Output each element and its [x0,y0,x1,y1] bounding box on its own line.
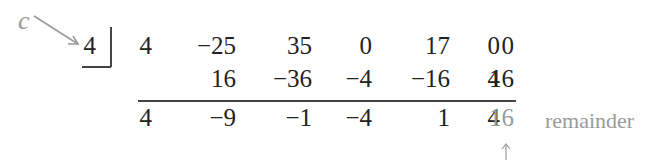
product: −36 [252,65,312,93]
remainder-label: remainder [545,108,634,134]
result: −1 [252,104,312,132]
divisor-value: 4 [36,32,96,60]
coefficient: 35 [252,32,312,60]
c-label: c [18,6,30,36]
coefficient: 0 [312,32,372,60]
product: 16 [176,65,236,93]
remainder-value: 16 [454,104,514,132]
coefficient: 0 [454,32,514,60]
coefficient: −25 [176,32,236,60]
coefficient: 4 [92,32,152,60]
result: −9 [176,104,236,132]
up-arrow-icon [500,142,512,160]
product: 16 [454,65,514,93]
result: −4 [312,104,372,132]
product: −4 [312,65,372,93]
divisor-underline [82,66,111,68]
result: 4 [92,104,152,132]
sum-line [138,100,516,102]
